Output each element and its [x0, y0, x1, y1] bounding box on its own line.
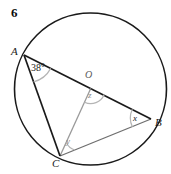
angle-label-x: x — [133, 114, 137, 123]
angle-label-z: z — [88, 91, 92, 100]
geometry-figure: 6 A B C O 38° x y z — [0, 0, 171, 174]
point-label-C: C — [52, 158, 59, 169]
point-label-O: O — [85, 70, 92, 80]
angle-label-y: y — [66, 137, 70, 146]
point-label-A: A — [11, 46, 18, 57]
angle-label-38-degrees: 38° — [31, 63, 45, 73]
point-label-B: B — [155, 117, 162, 128]
circle-geometry-drawing — [0, 0, 171, 174]
